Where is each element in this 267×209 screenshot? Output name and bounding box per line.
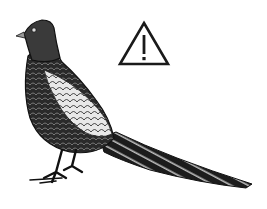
pheasant-legs	[44, 150, 82, 182]
illustration-canvas	[0, 0, 267, 209]
pheasant-beak	[16, 32, 25, 38]
pheasant-feet	[30, 178, 62, 183]
pheasant-eye	[32, 28, 36, 32]
pheasant-tail	[100, 132, 252, 188]
warning-triangle-icon	[120, 23, 168, 64]
